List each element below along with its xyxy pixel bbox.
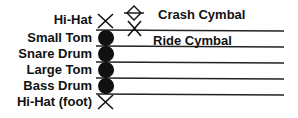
hihat-x-icon (98, 14, 113, 28)
hihat-foot-x-icon (98, 95, 113, 109)
label-large-tom: Large Tom (0, 63, 92, 77)
label-bass-drum: Bass Drum (0, 79, 92, 93)
label-small-tom: Small Tom (0, 31, 92, 45)
staff-line (96, 78, 284, 79)
label-snare-drum: Snare Drum (0, 47, 92, 61)
staff-line (96, 94, 284, 95)
staff-line (96, 62, 284, 63)
label-hi-hat-foot: Hi-Hat (foot) (0, 95, 92, 109)
label-crash-cymbal: Crash Cymbal (158, 8, 245, 22)
staff-line (96, 30, 284, 31)
label-ride-cymbal: Ride Cymbal (153, 34, 232, 48)
label-hi-hat: Hi-Hat (0, 13, 92, 27)
ride-x-icon (128, 21, 141, 36)
crash-diamond-icon (124, 6, 144, 20)
